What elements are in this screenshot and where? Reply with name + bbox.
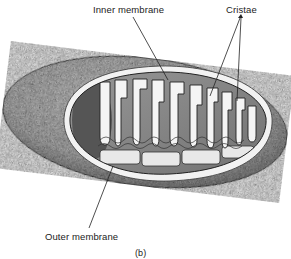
mitochondrion-diagram bbox=[0, 0, 291, 259]
label-outer-membrane: Outer membrane bbox=[45, 231, 118, 242]
label-inner-membrane: Inner membrane bbox=[93, 4, 164, 15]
label-cristae: Cristae bbox=[226, 4, 257, 15]
panel-label: (b) bbox=[135, 248, 146, 258]
